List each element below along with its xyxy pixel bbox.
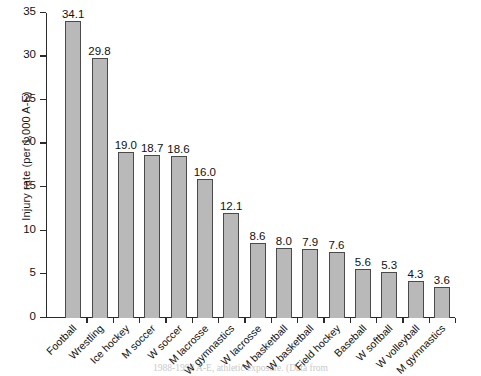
plot-area: 0510152025303534.129.819.018.718.616.012… [46,13,455,318]
y-axis-tick: 25 [40,99,46,100]
bar: 8.6 [250,243,266,318]
y-axis-tick-label: 20 [23,135,36,147]
y-axis-tick-label: 30 [23,48,36,60]
x-axis-tick [218,318,219,323]
bar: 5.6 [355,269,371,318]
bar-value-label: 7.9 [302,236,318,248]
x-axis-tick [323,318,324,323]
injury-rate-bar-chart: Injury rate (per 1,000 A-E) 051015202530… [0,0,481,376]
y-axis-tick: 15 [40,186,46,187]
y-axis-tick-label: 15 [23,179,36,191]
y-axis-tick-label: 25 [23,92,36,104]
bar: 16.0 [197,179,213,318]
bar-value-label: 16.0 [194,166,216,178]
y-axis-tick-label: 35 [23,5,36,17]
x-axis-tick [350,318,351,323]
bar: 8.0 [276,248,292,318]
y-axis-tick-label: 5 [30,266,36,278]
bar: 3.6 [434,287,450,318]
bar: 29.8 [92,58,108,318]
bar-value-label: 18.7 [141,142,163,154]
y-axis-tick-label: 0 [30,310,36,322]
bar-value-label: 8.6 [250,230,266,242]
y-axis-tick: 10 [40,230,46,231]
x-axis-tick [192,318,193,323]
bar: 7.9 [302,249,318,318]
bar: 4.3 [408,281,424,318]
bar-value-label: 29.8 [88,45,110,57]
y-axis-line [46,13,47,318]
bar: 34.1 [65,21,81,318]
y-axis-tick: 0 [40,317,46,318]
bar: 12.1 [223,213,239,318]
x-axis-tick [139,318,140,323]
x-axis-tick [165,318,166,323]
x-axis-tick [429,318,430,323]
x-axis-tick [376,318,377,323]
y-axis-tick: 30 [40,55,46,56]
bar-value-label: 8.0 [276,235,292,247]
bar-value-label: 12.1 [220,200,242,212]
bar: 18.7 [144,155,160,318]
y-axis-tick: 35 [40,12,46,13]
y-axis-tick: 20 [40,142,46,143]
y-axis-tick-label: 10 [23,223,36,235]
x-axis-tick [297,318,298,323]
y-axis-tick: 5 [40,273,46,274]
bar-value-label: 34.1 [62,8,84,20]
bar: 18.6 [171,156,187,318]
bar-value-label: 5.6 [355,256,371,268]
bar: 7.6 [329,252,345,318]
bar-value-label: 5.3 [381,259,397,271]
x-axis-tick [271,318,272,323]
bar-value-label: 4.3 [408,268,424,280]
bar: 19.0 [118,152,134,318]
bar-value-label: 3.6 [434,274,450,286]
x-axis-tick [455,318,456,323]
x-axis-tick [113,318,114,323]
bar-value-label: 7.6 [329,239,345,251]
x-axis-tick [86,318,87,323]
bar-value-label: 18.6 [167,143,189,155]
bar: 5.3 [381,272,397,318]
x-axis-tick [402,318,403,323]
bar-value-label: 19.0 [115,139,137,151]
x-axis-tick [244,318,245,323]
